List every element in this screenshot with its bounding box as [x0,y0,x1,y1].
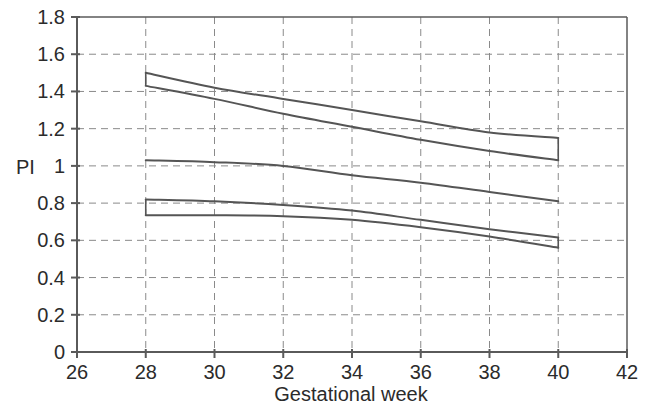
x-tick-label: 32 [272,361,294,383]
y-tick-label: 0.8 [37,192,65,214]
chart-background [0,0,649,410]
y-tick-label: 0.2 [37,304,65,326]
pi-gestational-week-line-chart: 00.20.40.60.811.21.41.61.8 2628303234363… [0,0,649,410]
x-tick-label: 42 [616,361,638,383]
y-tick-label: 0 [54,341,65,363]
y-tick-label: 1.8 [37,6,65,28]
x-tick-label: 30 [203,361,225,383]
x-tick-label: 34 [341,361,363,383]
x-tick-label: 38 [478,361,500,383]
y-axis-title: PI [16,156,35,178]
x-tick-labels: 262830323436384042 [66,361,638,383]
y-tick-label: 1.6 [37,43,65,65]
y-tick-label: 0.4 [37,267,65,289]
x-tick-label: 26 [66,361,88,383]
x-tick-label: 28 [135,361,157,383]
y-tick-label: 0.6 [37,229,65,251]
y-tick-label: 1 [54,155,65,177]
x-tick-label: 40 [547,361,569,383]
y-tick-label: 1.2 [37,118,65,140]
chart-container: 00.20.40.60.811.21.41.61.8 2628303234363… [0,0,649,410]
y-tick-label: 1.4 [37,80,65,102]
x-axis-title: Gestational week [274,383,428,405]
x-tick-label: 36 [410,361,432,383]
